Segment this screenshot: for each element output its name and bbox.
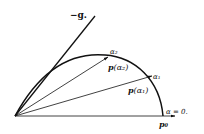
alpha1-label: α₁ [153, 73, 161, 81]
alpha2-label: α₂ [110, 48, 118, 56]
p0-label: p₀ [159, 119, 169, 129]
alpha0-label: α = 0. [166, 108, 188, 116]
p-alpha2-label: p(α₂) [108, 62, 128, 72]
vector-diagram: −g. α₂ p(α₂) α₁ p(α₁) α = 0. p₀ [0, 0, 204, 134]
p-alpha2-vector [15, 57, 108, 116]
neg-g-vector [15, 16, 95, 116]
p-alpha1-label: p(α₁) [128, 85, 148, 95]
neg-g-label: −g. [70, 10, 87, 20]
p-alpha1-vector [15, 76, 152, 116]
